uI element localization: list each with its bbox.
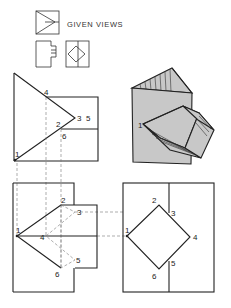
svg-text:4: 4 (193, 233, 198, 242)
svg-text:2: 2 (152, 196, 157, 205)
svg-text:5: 5 (76, 256, 81, 265)
svg-text:1: 1 (16, 226, 21, 235)
svg-text:6: 6 (62, 132, 67, 141)
given-views-icon-front (36, 41, 56, 67)
svg-text:5: 5 (86, 114, 91, 123)
svg-text:5: 5 (171, 259, 176, 268)
given-views-label: GIVEN VIEWS (67, 20, 123, 29)
svg-text:3: 3 (171, 209, 176, 218)
svg-text:3: 3 (77, 114, 82, 123)
svg-text:1: 1 (125, 226, 130, 235)
orthographic-drawing: GIVEN VIEWS 4 3 5 2 6 1 (0, 0, 231, 308)
svg-text:2: 2 (56, 120, 61, 129)
pictorial-view (132, 68, 214, 164)
svg-text:4: 4 (44, 88, 49, 97)
given-views-icon-top (36, 11, 59, 34)
svg-text:1: 1 (138, 121, 143, 130)
svg-text:3: 3 (77, 208, 82, 217)
svg-text:6: 6 (152, 272, 157, 281)
given-views-icon-side (66, 41, 89, 67)
side-view (123, 183, 214, 292)
svg-text:1: 1 (15, 150, 20, 159)
svg-text:4: 4 (40, 233, 45, 242)
svg-text:6: 6 (55, 270, 60, 279)
svg-text:2: 2 (61, 196, 66, 205)
